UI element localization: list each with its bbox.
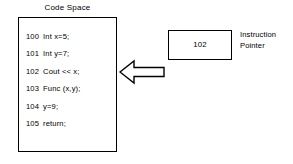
code-line-address: 104 — [26, 98, 43, 115]
code-line-source: Int y=7; — [43, 45, 69, 62]
code-line-address: 105 — [26, 115, 43, 132]
code-line-address: 100 — [26, 28, 43, 45]
code-line-source: y=9; — [43, 98, 58, 115]
instruction-pointer-label: Instruction Pointer — [240, 30, 292, 51]
left-arrow-icon — [119, 59, 165, 85]
code-line: 105return; — [26, 115, 114, 132]
code-line-source: Func (x,y); — [43, 80, 81, 97]
code-line-address: 103 — [26, 80, 43, 97]
code-line-address: 101 — [26, 45, 43, 62]
code-line: 102Cout << x; — [26, 63, 114, 80]
code-line-source: Cout << x; — [43, 63, 80, 80]
instruction-pointer-label-line-2: Pointer — [240, 41, 292, 52]
instruction-pointer-label-line-1: Instruction — [240, 30, 292, 41]
code-line: 103Func (x,y); — [26, 80, 114, 97]
code-line-source: return; — [43, 115, 66, 132]
diagram-canvas: Code Space 100Int x=5; 101Int y=7; 102Co… — [0, 0, 293, 164]
code-line-source: Int x=5; — [43, 28, 69, 45]
code-line: 100Int x=5; — [26, 28, 114, 45]
code-line: 104y=9; — [26, 98, 114, 115]
code-listing: 100Int x=5; 101Int y=7; 102Cout << x; 10… — [26, 28, 114, 132]
code-line: 101Int y=7; — [26, 45, 114, 62]
code-line-address: 102 — [26, 63, 43, 80]
instruction-pointer-value: 102 — [168, 30, 232, 60]
code-space-title: Code Space — [18, 3, 117, 12]
